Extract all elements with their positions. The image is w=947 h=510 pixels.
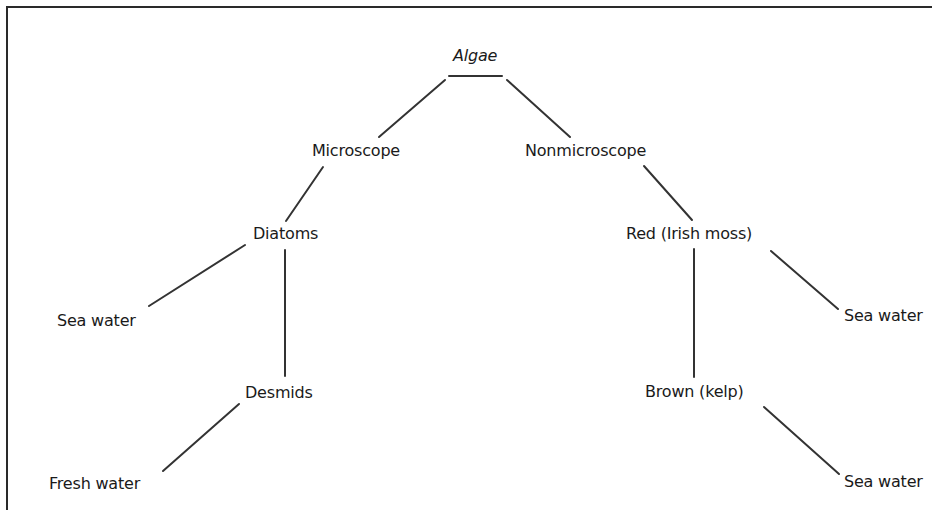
node-microscope: Microscope	[312, 141, 400, 161]
edge-diatoms-seawater	[149, 245, 245, 306]
node-brown-sea-water: Sea water	[844, 472, 923, 492]
node-red-sea-water: Sea water	[844, 306, 923, 326]
node-brown-kelp: Brown (kelp)	[645, 382, 744, 402]
edge-desmids-freshwater	[163, 404, 239, 471]
edge-microscope-diatoms	[286, 167, 323, 221]
node-desmids: Desmids	[245, 383, 313, 403]
edge-root-microscope	[379, 80, 445, 137]
node-algae: Algae	[453, 46, 497, 66]
edge-brown-seawater	[764, 407, 839, 474]
edge-root-nonmicroscope	[507, 80, 570, 137]
edge-nonmicroscope-red	[644, 166, 692, 220]
node-diatoms-sea-water: Sea water	[57, 311, 136, 331]
node-red-irish-moss: Red (Irish moss)	[626, 224, 752, 244]
node-desmids-fresh-water: Fresh water	[49, 474, 140, 494]
tree-edges	[0, 0, 947, 510]
edge-red-seawater	[771, 251, 838, 309]
node-nonmicroscope: Nonmicroscope	[525, 141, 646, 161]
node-diatoms: Diatoms	[253, 224, 318, 244]
